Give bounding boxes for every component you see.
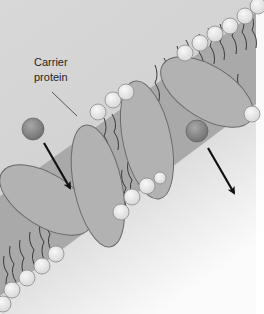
solute-molecule-left <box>22 118 44 140</box>
label-line-2: protein <box>34 70 68 85</box>
carrier-protein-label: Carrier protein <box>34 55 68 85</box>
label-line-1: Carrier <box>34 55 68 70</box>
solute-molecule-right <box>186 120 208 142</box>
membrane-illustration <box>0 0 264 314</box>
carrier-protein-diagram: Carrier protein <box>0 0 264 314</box>
